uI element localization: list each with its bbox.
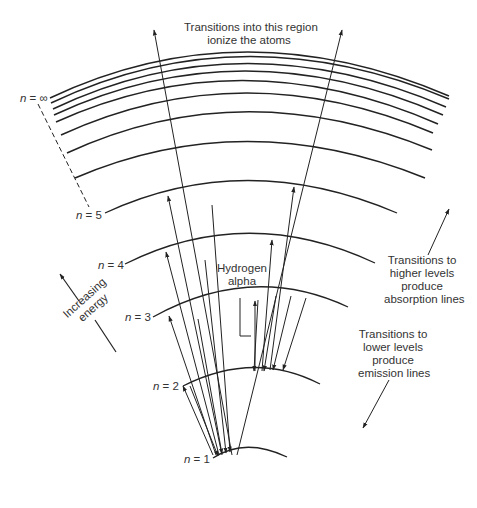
level-label-n4: n = 4: [98, 259, 124, 272]
ionize-label: Transitions into this region ionize the …: [184, 21, 314, 47]
absorption-pointer-arrow: [428, 209, 449, 255]
absorption-label: Transitions to higher levels produce abs…: [384, 254, 460, 306]
level-arc-9: [56, 80, 438, 124]
level-label-n3: n = 3: [125, 311, 151, 324]
level-arc-6: [75, 142, 425, 179]
level-arc-n4: [125, 233, 375, 264]
level-value: = 2: [159, 380, 179, 392]
absorption-label-line4: absorption lines: [384, 293, 460, 306]
hydrogen-alpha-pointer: [240, 298, 251, 336]
emission-label: Transitions to lower levels produce emis…: [358, 328, 428, 380]
ionize-label-line2: ionize the atoms: [184, 34, 314, 47]
emission-arrows-to-n2: [254, 296, 306, 371]
level-value: = 4: [104, 259, 124, 271]
level-arc-7: [67, 112, 432, 153]
level-value: = 1: [190, 453, 210, 465]
level-arc-n2: [183, 367, 320, 386]
level-label-n1: n = 1: [184, 453, 210, 466]
level-arc-n5: [105, 181, 397, 214]
emission-label-line2: lower levels: [358, 341, 428, 354]
level-arc-n1: [213, 447, 287, 458]
increasing-energy-line-down: [95, 320, 116, 352]
level-arc-ninf: [50, 52, 449, 98]
level-value: = 5: [82, 209, 102, 221]
emission-label-line1: Transitions to: [358, 328, 428, 341]
absorption-label-line2: higher levels: [384, 267, 460, 280]
hydrogen-alpha-line1: Hydrogen: [214, 262, 270, 275]
emission-label-line4: emission lines: [358, 367, 428, 380]
absorption-label-line1: Transitions to: [384, 254, 460, 267]
level-value: = 3: [131, 311, 151, 323]
absorption-arrows-from-n1: [166, 196, 222, 455]
level-value: = ∞: [26, 92, 47, 104]
level-label-n5: n = 5: [76, 209, 102, 222]
emission-label-line3: produce: [358, 354, 428, 367]
ionize-label-line1: Transitions into this region: [184, 21, 314, 34]
hydrogen-alpha-label: Hydrogen alpha: [214, 262, 270, 288]
level-label-n2: n = 2: [153, 380, 179, 393]
emission-pointer-arrow: [363, 380, 389, 428]
level-label-ninf: n = ∞: [20, 92, 48, 105]
hydrogen-alpha-line2: alpha: [214, 275, 270, 288]
absorption-label-line3: produce: [384, 280, 460, 293]
